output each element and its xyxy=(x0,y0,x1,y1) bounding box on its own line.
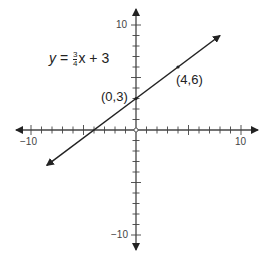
y-tick-label-max: 10 xyxy=(116,19,127,30)
point-label-4-6: (4,6) xyxy=(176,72,203,87)
x-tick-label-min: −10 xyxy=(20,136,37,147)
point-marker xyxy=(176,65,179,68)
origin-marker xyxy=(134,128,138,132)
graph-svg xyxy=(0,0,265,254)
equation-label: y = 34x + 3 xyxy=(49,50,109,68)
point-label-0-3: (0,3) xyxy=(101,89,128,104)
point-marker xyxy=(134,97,137,100)
coordinate-plane: y = 34x + 3 (0,3) (4,6) −10 10 10 −10 xyxy=(0,0,265,254)
x-tick-label-max: 10 xyxy=(235,136,246,147)
y-tick-label-min: −10 xyxy=(111,229,128,240)
